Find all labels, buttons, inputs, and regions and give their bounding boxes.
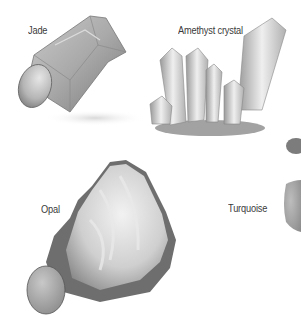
gem-label-amethyst-crystal: Amethyst crystal (178, 24, 243, 36)
gem-label-opal: Opal (41, 203, 60, 215)
gem-label-turquoise: Turquoise (228, 202, 267, 214)
turquoise-gem (284, 138, 301, 232)
gem-label-jade: Jade (28, 24, 47, 36)
opal-gem (27, 160, 176, 314)
gemstones-illustration (0, 0, 301, 316)
